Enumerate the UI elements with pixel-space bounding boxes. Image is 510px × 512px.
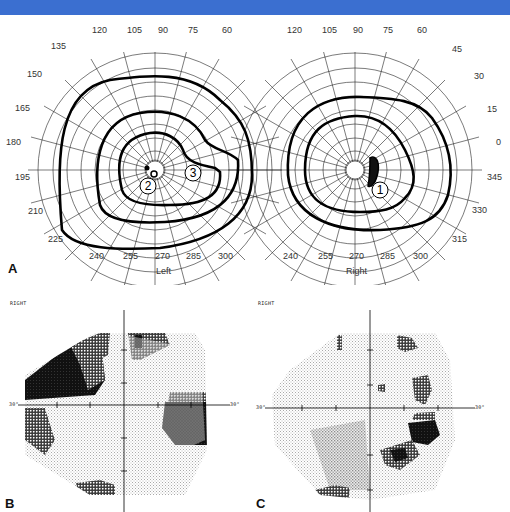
goldmann-chart: 2 3 1 [0, 15, 510, 285]
axis-left-c: 30° [256, 404, 266, 410]
blind-spot-ring-left [151, 171, 157, 177]
header-bar [0, 0, 510, 15]
eye-label-b: RIGHT [10, 300, 27, 306]
marker-2-label: 2 [145, 179, 152, 193]
axis-right-b: 30° [230, 401, 240, 407]
axis-left-b: 30° [9, 401, 19, 407]
marker-3-label: 3 [190, 166, 197, 180]
marker-1-label: 1 [377, 183, 384, 197]
greyscale-plot-c [250, 290, 510, 512]
axis-right-c: 30° [475, 404, 485, 410]
panel-c-label: C [256, 496, 265, 511]
panel-b-label: B [5, 496, 14, 511]
eye-label-c: RIGHT [258, 300, 275, 306]
right-eye-caption: Right [346, 266, 367, 276]
right-eye-field [227, 42, 483, 285]
greyscale-plot-b [0, 290, 250, 512]
panel-a-label: A [8, 261, 17, 276]
left-eye-caption: Left [156, 266, 171, 276]
blind-spot-marker-left [145, 166, 150, 171]
scotoma-right [368, 157, 378, 186]
